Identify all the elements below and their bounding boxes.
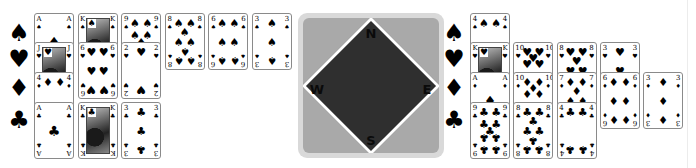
- club-icon: ♣: [472, 142, 478, 149]
- card-rank: 4: [559, 105, 565, 112]
- diamond-icon: ♦: [675, 112, 681, 119]
- card-corner-index: 6♥: [110, 45, 116, 59]
- card-corner-index: 3♠: [254, 53, 260, 67]
- spade-icon: ♠: [240, 53, 246, 60]
- card-corner-index: 8♠: [167, 16, 173, 30]
- card-rank: K: [110, 149, 116, 156]
- diamond-icon: ♦: [545, 82, 551, 89]
- card-corner-index: 3♥: [602, 45, 608, 59]
- spade-icon: ♠: [130, 17, 140, 28]
- playing-card-4-of-clubs[interactable]: 4♣4♣4♣4♣♣♣♣♣: [557, 102, 597, 159]
- playing-card-2-of-hearts[interactable]: 2♥2♥2♥2♥♥♥: [121, 42, 161, 99]
- heart-icon: ♥: [632, 52, 638, 59]
- card-corner-index: 8♥: [559, 45, 565, 59]
- diamond-icon: ♦: [621, 76, 631, 87]
- card-rank: 6: [602, 75, 608, 82]
- card-rank: 8: [589, 45, 595, 52]
- spade-icon: ♠: [254, 23, 260, 30]
- heart-icon: ♥: [136, 84, 146, 95]
- card-rank: 2: [153, 89, 159, 96]
- card-rank: 8: [167, 60, 173, 67]
- heart-icon: ♥: [535, 59, 545, 70]
- card-corner-index: 6♥: [110, 82, 116, 96]
- club-icon: ♣: [66, 112, 72, 119]
- compass-south-label: S: [366, 133, 375, 148]
- card-rank: 9: [472, 149, 478, 156]
- spade-icon: ♠: [186, 55, 196, 66]
- diamond-icon: ♦: [645, 112, 651, 119]
- card-rank: 3: [284, 16, 290, 23]
- heart-icon: ♥: [515, 52, 521, 59]
- card-corner-index: 4♣: [589, 105, 595, 119]
- heart-icon: ♥: [522, 59, 532, 70]
- card-rank: K: [110, 16, 116, 23]
- club-icon: ♣: [153, 142, 159, 149]
- card-rank: 7: [559, 75, 565, 82]
- playing-card-9-of-clubs[interactable]: 9♣9♣9♣9♣♣♣♣♣♣♣♣♣♣: [470, 102, 510, 159]
- card-corner-index: 4♦: [66, 75, 72, 89]
- playing-card-6-of-diamonds[interactable]: 6♦6♦6♦6♦♦♦♦♦♦♦: [600, 72, 640, 129]
- diamond-icon: ♦: [658, 114, 668, 125]
- spade-icon: ♠: [167, 23, 173, 30]
- card-rank: 3: [645, 75, 651, 82]
- card-pips: ♦♦♦♦♦♦: [609, 76, 631, 125]
- card-corner-index: 8♥: [589, 45, 595, 59]
- card-rank: 9: [502, 149, 508, 156]
- playing-card-8-of-spades[interactable]: 8♠8♠8♠8♠♠♠♠♠♠♠♠♠: [165, 13, 205, 70]
- compass-north-label: N: [366, 26, 377, 41]
- heart-icon: ♥: [99, 84, 109, 95]
- spade-icon: ♠: [66, 23, 72, 30]
- card-corner-index: 2♥: [123, 82, 129, 96]
- club-icon: ♣: [136, 144, 146, 155]
- playing-card-k-of-clubs[interactable]: K♣K♣K♣K♣♣: [78, 102, 118, 159]
- spade-icon: ♠: [36, 23, 42, 30]
- playing-card-3-of-spades[interactable]: 3♠3♠3♠3♠♠♠♠: [252, 13, 292, 70]
- compass-west-label: W: [310, 82, 324, 97]
- diamond-icon: ♦: [8, 75, 30, 101]
- card-rank: A: [36, 105, 42, 112]
- card-corner-index: 6♦: [602, 112, 608, 126]
- club-icon: ♣: [545, 142, 551, 149]
- diamond-icon: ♦: [621, 114, 631, 125]
- diamond-icon: ♦: [609, 76, 619, 87]
- heart-icon: ♥: [136, 46, 146, 57]
- card-rank: 9: [502, 105, 508, 112]
- playing-card-6-of-spades[interactable]: 6♠6♠6♠6♠♠♠♠♠♠♠: [208, 13, 248, 70]
- card-rank: 8: [197, 16, 203, 23]
- club-icon: ♣: [136, 125, 146, 136]
- playing-card-3-of-diamonds[interactable]: 3♦3♦3♦3♦♦♦♦: [643, 72, 683, 129]
- playing-card-a-of-clubs[interactable]: A♣A♣A♣A♣♣: [34, 102, 74, 159]
- diamond-icon: ♦: [609, 95, 619, 106]
- heart-icon: ♥: [86, 46, 96, 57]
- playing-card-3-of-clubs[interactable]: 3♣3♣3♣3♣♣♣♣: [121, 102, 161, 159]
- card-corner-index: 8♠: [197, 16, 203, 30]
- heart-icon: ♥: [153, 82, 159, 89]
- spade-icon: ♠: [479, 17, 489, 28]
- card-rank: 6: [210, 60, 216, 67]
- card-corner-index: 9♣: [502, 105, 508, 119]
- playing-card-6-of-hearts[interactable]: 6♥6♥6♥6♥♥♥♥♥♥♥: [78, 42, 118, 99]
- diamond-icon: ♦: [522, 89, 532, 100]
- playing-card-8-of-clubs[interactable]: 8♣8♣8♣8♣♣♣♣♣♣♣♣♣: [513, 102, 553, 159]
- spade-icon: ♠: [88, 19, 96, 28]
- spade-icon: ♠: [472, 23, 478, 30]
- card-rank: 10: [545, 45, 551, 52]
- diamond-icon: ♦: [602, 82, 608, 89]
- club-icon: ♣: [515, 142, 521, 149]
- card-corner-index: 3♠: [284, 16, 290, 30]
- heart-icon: ♥: [66, 52, 72, 59]
- club-icon: ♣: [565, 144, 575, 155]
- club-icon: ♣: [589, 112, 595, 119]
- diamond-icon: ♦: [443, 75, 465, 101]
- card-rank: 6: [80, 45, 86, 52]
- club-icon: ♣: [565, 106, 575, 117]
- club-icon: ♣: [88, 108, 96, 117]
- card-corner-index: 10♦: [515, 75, 521, 89]
- card-corner-index: 8♠: [197, 53, 203, 67]
- heart-icon: ♥: [110, 82, 116, 89]
- spade-icon: ♠: [210, 23, 216, 30]
- card-corner-index: 6♠: [240, 53, 246, 67]
- spade-icon: ♠: [240, 23, 246, 30]
- compass-background: N E S W: [303, 18, 439, 153]
- card-corner-index: 6♠: [210, 53, 216, 67]
